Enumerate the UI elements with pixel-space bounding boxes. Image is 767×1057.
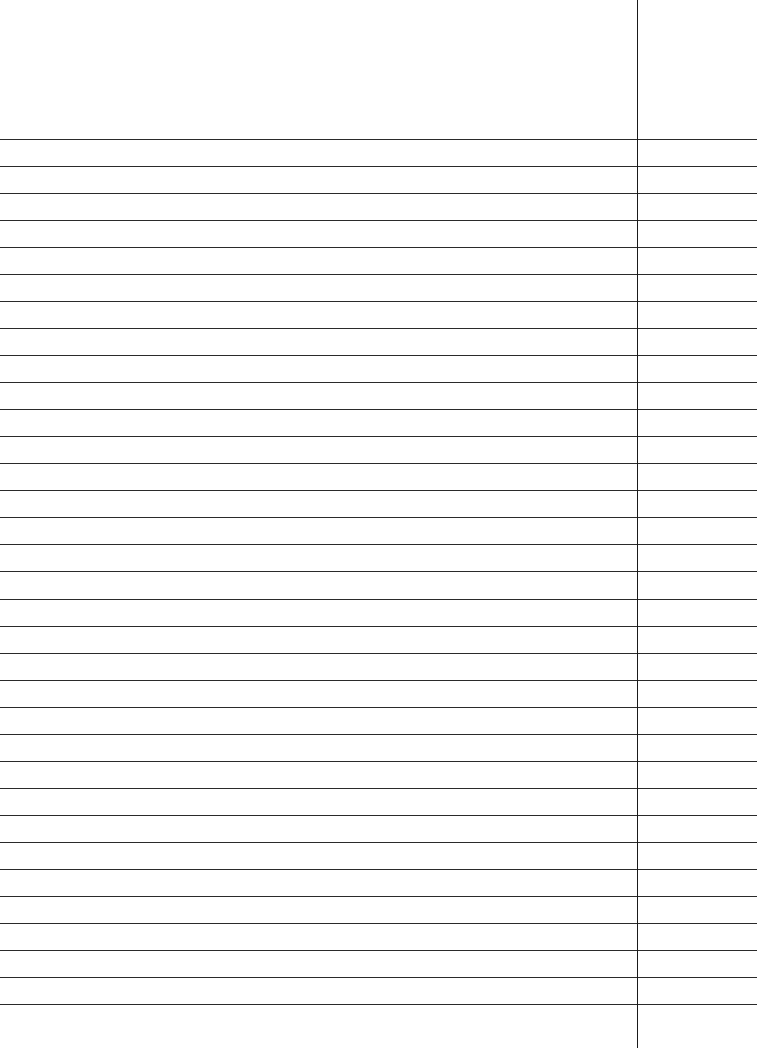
ruled-line <box>0 896 757 897</box>
ruled-line <box>0 166 757 167</box>
ruled-line <box>0 355 757 356</box>
ruled-line <box>0 328 757 329</box>
ruled-line <box>0 436 757 437</box>
ruled-line <box>0 517 757 518</box>
ruled-line <box>0 301 757 302</box>
ruled-line <box>0 463 757 464</box>
ruled-line <box>0 950 757 951</box>
ruled-line <box>0 571 757 572</box>
ruled-line <box>0 680 757 681</box>
ruled-line <box>0 139 757 140</box>
ruled-line <box>0 409 757 410</box>
ruled-line <box>0 220 757 221</box>
ruled-line <box>0 1004 757 1005</box>
ruled-line <box>0 707 757 708</box>
ruled-line <box>0 599 757 600</box>
ruled-line <box>0 815 757 816</box>
ruled-line <box>0 788 757 789</box>
ruled-line <box>0 193 757 194</box>
ruled-line <box>0 274 757 275</box>
ruled-line <box>0 653 757 654</box>
ruled-line <box>0 842 757 843</box>
ruled-line <box>0 977 757 978</box>
ruled-line <box>0 382 757 383</box>
ruled-line <box>0 544 757 545</box>
margin-line <box>637 0 638 1048</box>
ruled-line <box>0 490 757 491</box>
ruled-line <box>0 923 757 924</box>
ruled-line <box>0 761 757 762</box>
ruled-line <box>0 626 757 627</box>
lined-paper-page <box>0 0 767 1057</box>
ruled-line <box>0 869 757 870</box>
ruled-line <box>0 247 757 248</box>
ruled-line <box>0 734 757 735</box>
